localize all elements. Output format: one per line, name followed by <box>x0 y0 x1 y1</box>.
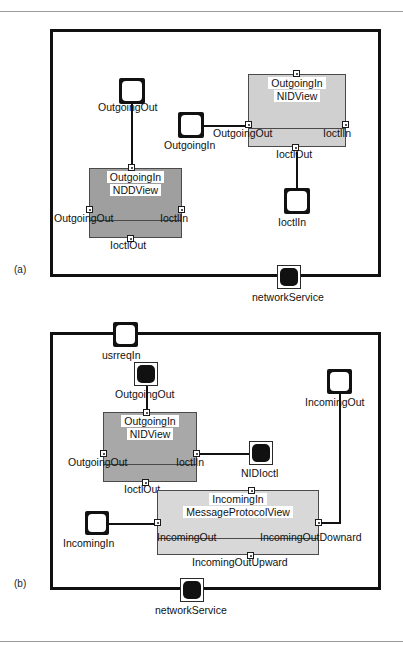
panel-a-frame <box>50 29 381 277</box>
panel-a-nidview[interactable]: OutgoingIn NIDView <box>248 74 346 129</box>
panel-a-nddview-bottom-port-label: IoctlOut <box>110 239 146 251</box>
panel-b-port-nidioctl[interactable] <box>249 441 273 465</box>
panel-b-mpv-right-stub[interactable] <box>315 519 322 526</box>
panel-b-port-usrreqin-label: usrreqIn <box>102 349 141 361</box>
panel-b-port-incomingout[interactable] <box>327 369 352 394</box>
panel-b-port-incomingin[interactable] <box>85 511 109 535</box>
panel-b-port-usrreqin[interactable] <box>113 322 138 347</box>
wire-a-outgoingout-to-nddview <box>131 104 133 165</box>
panel-b-port-incomingin-label: IncomingIn <box>63 537 114 549</box>
panel-a-nidview-top-stub[interactable] <box>293 70 300 77</box>
wire-b-incomingout-vertical <box>339 393 341 524</box>
panel-b-mpv-left-port-label: IncomingOut <box>157 531 217 543</box>
panel-a-nddview-left-port-label: OutgoingOut <box>54 212 114 224</box>
panel-b-mpv-top-port-label: IncomingIn <box>209 493 266 505</box>
panel-b-mpv-top-stub[interactable] <box>248 487 255 494</box>
page-rule-top <box>0 11 403 12</box>
panel-b-nidview-bottom-port-label: IoctlOut <box>124 483 160 495</box>
panel-b-mpv-bottom-port-label: IncomingOutUpward <box>192 556 288 568</box>
panel-a-nidview-title: NIDView <box>274 90 321 102</box>
panel-a-nidview-top-port-label: OutgoingIn <box>268 77 325 89</box>
panel-a-port-networkservice-label: networkService <box>252 291 324 303</box>
panel-a-nddview-top-port-label: OutgoingIn <box>107 171 164 183</box>
panel-b-nidview-right-port-label: IoctlIn <box>176 456 204 468</box>
panel-b-nidview-title: NIDView <box>127 428 174 440</box>
panel-b-port-nidioctl-label: NIDIoctl <box>241 467 278 479</box>
panel-b-port-networkservice[interactable] <box>180 578 204 602</box>
panel-a-port-ioctlin-label: IoctlIn <box>278 216 306 228</box>
panel-a-port-outgoingin-label: OutgoingIn <box>164 139 215 151</box>
panel-a-port-ioctlin[interactable] <box>284 188 310 214</box>
panel-b-nidview-top-port-label: OutgoingIn <box>121 415 178 427</box>
panel-a-nddview-top-stub[interactable] <box>128 164 135 171</box>
panel-b-port-networkservice-label: networkService <box>155 604 227 616</box>
wire-b-nidview-to-nidioctl <box>196 453 249 455</box>
panel-b-nidview-top-stub[interactable] <box>143 409 150 416</box>
panel-b-label: (b) <box>14 578 26 589</box>
panel-a-port-outgoingout-label: OutgoingOut <box>98 101 158 113</box>
panel-a-nidview-left-port-label: OutgoingOut <box>213 127 273 139</box>
wire-b-incomingin-to-mpv <box>108 523 157 525</box>
panel-a-label: (a) <box>14 264 26 275</box>
panel-b-port-outgoingout[interactable] <box>134 362 158 386</box>
panel-b-mpv-left-stub[interactable] <box>154 519 161 526</box>
panel-a-nddview-title: NDDView <box>110 184 161 196</box>
panel-b-mpv-title: MessageProtocolView <box>183 506 293 518</box>
panel-b-port-outgoingout-label: OutgoingOut <box>115 388 175 400</box>
page-rule-bottom <box>0 641 403 642</box>
panel-a-port-outgoingin[interactable] <box>178 112 204 138</box>
panel-a-nddview-right-port-label: IoctlIn <box>160 212 188 224</box>
panel-b-port-incomingout-label: IncomingOut <box>305 396 365 408</box>
panel-b-nidview-left-port-label: OutgoingOut <box>68 456 128 468</box>
panel-b-mpv-right-port-label: IncomingOutDownard <box>260 531 362 543</box>
panel-a-nidview-bottom-port-label: IoctlOut <box>276 148 312 160</box>
panel-a-nidview-right-port-label: IoctlIn <box>323 127 351 139</box>
panel-a-port-networkservice[interactable] <box>277 265 301 289</box>
